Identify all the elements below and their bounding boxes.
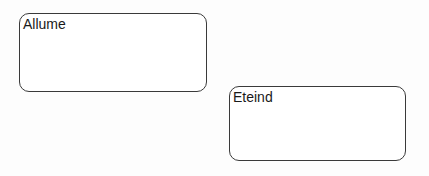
state-allume: Allume xyxy=(19,13,207,92)
state-label: Allume xyxy=(23,17,66,31)
state-label: Eteind xyxy=(233,90,273,104)
state-eteind: Eteind xyxy=(229,86,406,161)
